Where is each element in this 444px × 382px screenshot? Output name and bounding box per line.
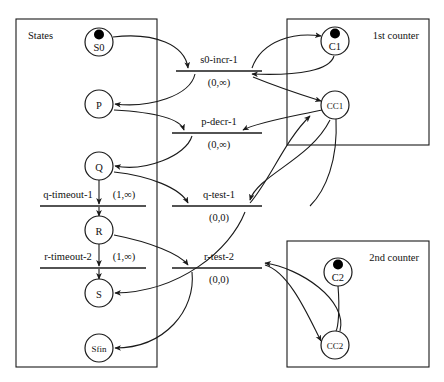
token-dot-C1 [330,29,340,39]
transition-interval-r-timeout-2: (1,∞) [113,251,136,263]
counter2-box-label: 2nd counter [369,252,419,263]
token-dot-S0 [94,30,104,40]
place-CC2[interactable]: CC2 [321,331,349,359]
place-label-CC1: CC1 [327,101,344,111]
place-label-C2: C2 [332,272,344,283]
place-C2[interactable]: C2 [324,258,352,286]
diagram-canvas: States1st counter2nd counter s0-incr-1(0… [0,0,444,382]
transition-r-test-2[interactable]: r-test-2(0,0) [172,251,262,286]
token-dot-C2 [333,260,343,270]
place-label-S0: S0 [93,42,104,53]
arc-C1-to-s0-incr-1 [252,56,334,74]
arc-P-to-p-decr-1 [114,110,184,130]
arc-r-test-2-to-Sfin [115,272,192,348]
arc-r-test-2-to-CC2 [265,265,321,341]
place-label-Q: Q [95,162,103,173]
place-label-Sfin: Sfin [91,344,107,354]
transition-name-q-test-1: q-test-1 [203,189,235,200]
transition-interval-q-test-1: (0,0) [209,212,230,224]
place-C1[interactable]: C1 [321,27,349,55]
place-label-S: S [96,289,102,300]
transition-name-s0-incr-1: s0-incr-1 [200,54,238,65]
arc-CC1-to-p-decr-1 [243,110,322,130]
transition-name-r-timeout-2: r-timeout-2 [44,251,92,262]
arc-q-test-1-to-CC1 [250,116,310,203]
transition-group: s0-incr-1(0,∞)p-decr-1(0,∞)q-timeout-1(1… [40,54,262,286]
arc-CC1-to-q-test-1 [250,120,330,200]
transition-name-p-decr-1: p-decr-1 [201,116,236,127]
arc-p-decr-1-to-Q [115,136,192,167]
place-label-P: P [96,100,102,111]
place-P[interactable]: P [85,90,113,118]
arc-s0-incr-1-to-P [115,74,195,105]
petri-net-diagram: States1st counter2nd counter s0-incr-1(0… [0,0,444,382]
transition-interval-s0-incr-1: (0,∞) [208,77,231,89]
container-counter1-box: 1st counter [287,19,429,145]
transition-interval-r-test-2: (0,0) [209,274,230,286]
place-S[interactable]: S [85,279,113,307]
place-Sfin[interactable]: Sfin [85,334,113,362]
transition-name-q-timeout-1: q-timeout-1 [43,189,93,200]
transition-r-timeout-2[interactable]: r-timeout-2(1,∞) [40,251,146,268]
place-R[interactable]: R [85,216,113,244]
place-label-C1: C1 [329,41,341,52]
place-CC1[interactable]: CC1 [321,91,349,119]
container-counter2-box: 2nd counter [287,241,429,367]
place-S0[interactable]: S0 [85,28,113,56]
place-label-CC2: CC2 [327,341,344,351]
arc-S0-to-s0-incr-1 [113,36,188,68]
transition-interval-q-timeout-1: (1,∞) [113,189,136,201]
transition-name-r-test-2: r-test-2 [204,251,234,262]
states-box-label: States [28,30,53,41]
transition-s0-incr-1[interactable]: s0-incr-1(0,∞) [176,54,262,89]
counter1-box-label: 1st counter [373,30,420,41]
transition-q-test-1[interactable]: q-test-1(0,0) [172,189,262,224]
transition-interval-p-decr-1: (0,∞) [208,139,231,151]
transition-q-timeout-1[interactable]: q-timeout-1(1,∞) [40,189,146,206]
place-label-R: R [95,226,102,237]
place-Q[interactable]: Q [85,152,113,180]
